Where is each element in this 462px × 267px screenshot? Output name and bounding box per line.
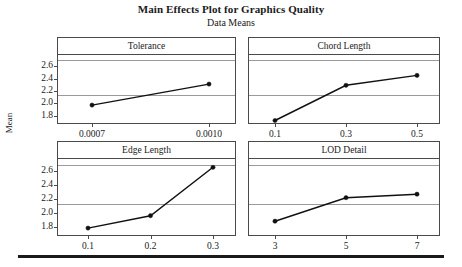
x-tick-label: 5	[344, 241, 349, 251]
data-point	[415, 192, 419, 196]
x-tick-mark	[346, 236, 347, 239]
panel-title-edge-length: Edge Length	[58, 142, 235, 159]
chart-subtitle: Data Means	[0, 17, 462, 28]
x-tick-label: 0.2	[145, 241, 157, 251]
x-tick-mark	[209, 124, 210, 127]
data-point	[86, 226, 90, 230]
x-tick-mark	[151, 236, 152, 239]
x-tick-label: 0.1	[269, 129, 281, 139]
plot-area-lod-detail	[249, 159, 439, 235]
data-point	[344, 196, 348, 200]
plot-area-chord-length	[249, 55, 439, 123]
y-tick-label: 2.0	[19, 208, 53, 217]
x-tick-mark	[275, 124, 276, 127]
x-tick-mark	[417, 124, 418, 127]
x-tick-mark	[346, 124, 347, 127]
data-point	[207, 82, 211, 86]
data-point	[273, 118, 277, 122]
y-tick-label: 2.6	[19, 61, 53, 70]
data-point	[211, 165, 215, 169]
data-point	[273, 219, 277, 223]
x-tick-label: 7	[415, 241, 420, 251]
plot-area-tolerance	[58, 55, 235, 123]
x-tick-mark	[213, 236, 214, 239]
panel-lod-detail: LOD Detail	[248, 141, 440, 236]
panel-edge-length: Edge Length	[57, 141, 236, 236]
plot-area-edge-length	[58, 159, 235, 235]
x-tick-label: 0.1	[82, 241, 94, 251]
data-point	[415, 73, 419, 77]
series-line-edge-length	[58, 159, 235, 235]
data-point	[90, 103, 94, 107]
series-line-lod-detail	[249, 159, 439, 235]
x-tick-label: 3	[273, 241, 278, 251]
y-tick-label: 1.8	[19, 222, 53, 231]
y-tick-label: 1.8	[19, 111, 53, 120]
x-tick-mark	[92, 124, 93, 127]
x-tick-label: 0.3	[207, 241, 219, 251]
y-tick-label: 2.4	[19, 180, 53, 189]
y-axis-label: Mean	[4, 98, 14, 148]
data-point	[344, 83, 348, 87]
panel-chord-length: Chord Length	[248, 37, 440, 124]
y-tick-label: 2.2	[19, 86, 53, 95]
chart-title: Main Effects Plot for Graphics Quality	[0, 3, 462, 15]
y-tick-label: 2.4	[19, 74, 53, 83]
x-tick-mark	[275, 236, 276, 239]
x-tick-label: 0.5	[411, 129, 423, 139]
x-tick-label: 0.0010	[196, 129, 222, 139]
series-line-tolerance	[58, 55, 235, 123]
x-tick-mark	[417, 236, 418, 239]
series-line-chord-length	[249, 55, 439, 123]
x-tick-mark	[88, 236, 89, 239]
y-tick-label: 2.6	[19, 166, 53, 175]
panel-tolerance: Tolerance	[57, 37, 236, 124]
main-effects-plot: Main Effects Plot for Graphics Quality D…	[0, 0, 462, 267]
x-tick-label: 0.0007	[79, 129, 105, 139]
data-point	[148, 214, 152, 218]
panel-title-tolerance: Tolerance	[58, 38, 235, 55]
y-tick-label: 2.0	[19, 98, 53, 107]
y-tick-label: 2.2	[19, 194, 53, 203]
bottom-divider-rule	[18, 255, 444, 258]
panel-title-lod-detail: LOD Detail	[249, 142, 439, 159]
x-tick-label: 0.3	[340, 129, 352, 139]
panel-title-chord-length: Chord Length	[249, 38, 439, 55]
